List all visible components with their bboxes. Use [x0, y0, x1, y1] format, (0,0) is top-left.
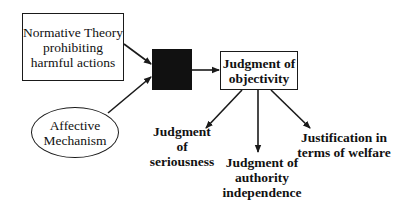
- node-normative-theory-label: Normative Theory prohibiting harmful act…: [23, 25, 123, 70]
- node-integration-black-box: [152, 49, 192, 90]
- node-judgment-seriousness: Judgment of seriousness: [146, 130, 218, 162]
- node-affective-mechanism-label: Affective Mechanism: [44, 118, 107, 148]
- edge-affective-to-integration: [108, 77, 151, 113]
- diagram: Normative Theory prohibiting harmful act…: [0, 0, 404, 212]
- node-justification-welfare-label: Justification in terms of welfare: [297, 130, 390, 160]
- edge-objectivity-to-seriousness: [206, 90, 242, 128]
- edge-objectivity-to-welfare: [271, 90, 310, 128]
- node-judgment-objectivity-label: Judgment of objectivity: [223, 56, 295, 86]
- node-normative-theory: Normative Theory prohibiting harmful act…: [22, 13, 124, 81]
- node-affective-mechanism: Affective Mechanism: [31, 107, 119, 158]
- node-judgment-authority-independence: Judgment of authority independence: [220, 152, 304, 202]
- node-judgment-objectivity: Judgment of objectivity: [220, 51, 298, 90]
- node-judgment-authority-label: Judgment of authority independence: [223, 155, 302, 200]
- node-justification-welfare: Justification in terms of welfare: [296, 129, 392, 161]
- edge-normative-to-integration: [124, 44, 151, 64]
- node-judgment-seriousness-label: Judgment of seriousness: [146, 124, 218, 169]
